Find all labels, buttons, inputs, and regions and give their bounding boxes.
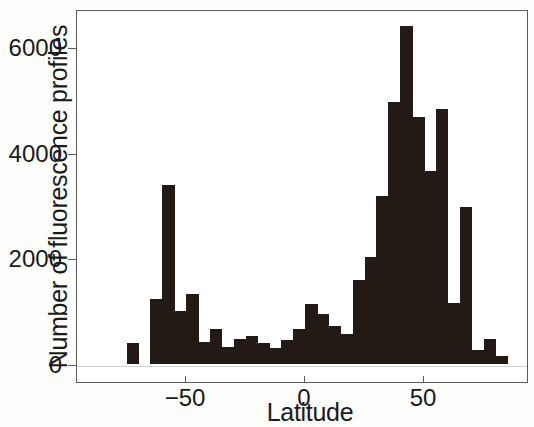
histogram-bar <box>448 303 461 364</box>
histogram-bar <box>150 299 163 365</box>
histogram-figure: Number of fluorescence profiles 60004000… <box>0 0 534 427</box>
y-tick-label: 4000 <box>0 142 62 166</box>
histogram-bar <box>281 340 294 364</box>
histogram-bar <box>341 334 354 364</box>
histogram-bar <box>460 207 473 364</box>
histogram-bar <box>127 343 140 364</box>
histogram-bar <box>484 339 497 364</box>
histogram-bar <box>222 347 235 364</box>
plot-area <box>76 10 528 383</box>
x-tick-mark <box>185 376 186 383</box>
y-axis-title: Number of fluorescence profiles <box>44 17 73 377</box>
histogram-bar <box>198 342 211 364</box>
histogram-bar <box>317 314 330 364</box>
y-tick-label: 6000 <box>0 36 62 60</box>
histogram-bar <box>495 356 508 364</box>
histogram-bar <box>424 171 437 364</box>
x-axis-title: Latitude <box>200 398 420 427</box>
histogram-bars <box>77 11 527 382</box>
histogram-bar <box>472 350 485 364</box>
histogram-bar <box>400 26 413 364</box>
histogram-bar <box>186 294 199 364</box>
histogram-bar <box>412 117 425 364</box>
y-tick-mark <box>68 365 76 366</box>
histogram-bar <box>234 339 247 364</box>
histogram-bar <box>257 343 270 364</box>
y-tick-label: 2000 <box>0 247 62 271</box>
histogram-bar <box>388 102 401 364</box>
histogram-bar <box>162 185 175 364</box>
histogram-bar <box>269 348 282 364</box>
histogram-bar <box>329 326 342 364</box>
histogram-bar <box>353 280 366 364</box>
histogram-bar <box>210 329 223 364</box>
histogram-bar <box>376 196 389 364</box>
histogram-bar <box>174 311 187 364</box>
histogram-bar <box>293 329 306 364</box>
y-tick-mark <box>68 154 76 155</box>
histogram-bar <box>305 304 318 364</box>
histogram-bar <box>436 109 449 364</box>
histogram-bar <box>365 257 378 364</box>
histogram-bar <box>246 336 259 364</box>
y-tick-mark <box>68 48 76 49</box>
y-tick-mark <box>68 259 76 260</box>
y-tick-label: 0 <box>0 353 62 377</box>
x-tick-mark <box>423 376 424 383</box>
x-tick-mark <box>304 376 305 383</box>
